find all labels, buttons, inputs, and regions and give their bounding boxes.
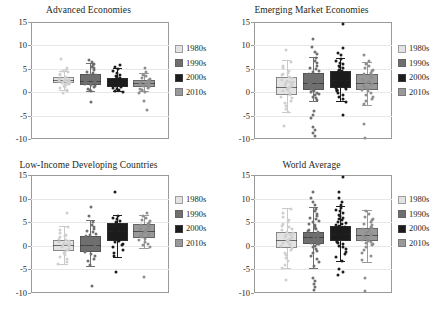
- y-axis-tick-label: 0: [23, 241, 27, 251]
- legend-label: 1980s: [409, 195, 429, 204]
- data-point: [367, 65, 370, 68]
- tick-mark: [28, 139, 31, 140]
- y-axis-tick-label: 0: [246, 241, 250, 251]
- legend-label: 2000s: [186, 224, 206, 233]
- whisker-cap: [139, 248, 148, 249]
- y-axis-tick-label: -10: [16, 288, 27, 298]
- data-point: [147, 242, 150, 245]
- data-point: [363, 103, 366, 106]
- y-axis-tick-label: 10: [19, 194, 28, 204]
- data-point: [369, 234, 372, 237]
- y-axis-tick-label: 5: [246, 217, 250, 227]
- y-axis-tick-label: -5: [20, 111, 27, 121]
- data-point: [360, 258, 363, 261]
- legend-swatch-2000s: [175, 225, 183, 233]
- data-point: [365, 241, 368, 244]
- data-point: [360, 251, 363, 254]
- legend: 1980s1990s2000s2010s: [175, 195, 219, 253]
- data-point: [138, 239, 141, 242]
- data-point: [363, 53, 366, 56]
- legend-item-2000s: 2000s: [398, 73, 442, 82]
- y-axis-tick-label: 15: [242, 17, 251, 27]
- data-point: [363, 123, 366, 126]
- legend-swatch-1980s: [398, 196, 406, 204]
- legend-label: 2000s: [409, 73, 429, 82]
- legend-swatch-1990s: [175, 59, 183, 67]
- y-axis-tick-label: -5: [20, 264, 27, 274]
- y-axis-tick-label: -10: [239, 134, 250, 144]
- legend-label: 1990s: [409, 59, 429, 68]
- plot-area: 151050-5-10: [254, 175, 392, 293]
- legend-item-2010s: 2010s: [398, 239, 442, 248]
- data-point: [142, 275, 145, 278]
- legend-item-1990s: 1990s: [398, 59, 442, 68]
- legend-swatch-2010s: [398, 239, 406, 247]
- plot-area: 151050-5-10: [254, 22, 392, 139]
- tick-mark: [28, 293, 31, 294]
- legend-swatch-2010s: [175, 239, 183, 247]
- box-series-2010s: [31, 22, 169, 139]
- y-axis-tick-label: 5: [23, 64, 27, 74]
- y-axis-tick-label: 5: [246, 64, 250, 74]
- data-point: [368, 59, 371, 62]
- data-point: [145, 212, 148, 215]
- legend-item-2010s: 2010s: [398, 88, 442, 97]
- legend-label: 2000s: [186, 73, 206, 82]
- y-axis-tick-label: 10: [19, 40, 28, 50]
- whisker-cap: [362, 262, 371, 263]
- panel-emerging-market-economies: Emerging Market Economies 151050-5-10 19…: [223, 0, 446, 155]
- plot-area: 151050-5-10: [31, 175, 169, 293]
- legend-swatch-1990s: [398, 59, 406, 67]
- legend-item-1980s: 1980s: [398, 44, 442, 53]
- legend-swatch-2010s: [175, 88, 183, 96]
- legend-label: 1980s: [186, 195, 206, 204]
- data-point: [142, 231, 145, 234]
- legend-label: 1980s: [409, 44, 429, 53]
- legend: 1980s1990s2000s2010s: [398, 195, 442, 253]
- legend-swatch-1990s: [175, 210, 183, 218]
- data-point: [371, 226, 374, 229]
- legend-label: 2000s: [409, 224, 429, 233]
- legend-swatch-2010s: [398, 88, 406, 96]
- legend-item-1980s: 1980s: [175, 195, 219, 204]
- y-axis-tick-label: 15: [242, 170, 251, 180]
- legend-label: 1990s: [186, 59, 206, 68]
- legend-item-1980s: 1980s: [398, 195, 442, 204]
- y-axis-tick-label: 5: [23, 217, 27, 227]
- data-point: [143, 90, 146, 93]
- data-point: [363, 215, 366, 218]
- data-point: [140, 218, 143, 221]
- data-point: [362, 78, 365, 81]
- data-point: [146, 86, 149, 89]
- y-axis-tick-label: 10: [242, 194, 251, 204]
- y-axis-tick-label: -10: [16, 134, 27, 144]
- legend-item-2000s: 2000s: [175, 73, 219, 82]
- y-axis-tick-label: 0: [246, 87, 250, 97]
- panel-title: World Average: [223, 160, 446, 170]
- data-point: [371, 244, 374, 247]
- data-point: [361, 88, 364, 91]
- legend: 1980s1990s2000s2010s: [175, 44, 219, 102]
- legend-label: 2010s: [409, 88, 429, 97]
- legend-item-1990s: 1990s: [175, 59, 219, 68]
- legend-label: 1990s: [409, 210, 429, 219]
- data-point: [364, 136, 367, 139]
- data-point: [142, 244, 145, 247]
- data-point: [362, 222, 365, 225]
- data-point: [362, 73, 365, 76]
- data-point: [146, 233, 149, 236]
- data-point: [138, 91, 141, 94]
- legend-swatch-1980s: [175, 196, 183, 204]
- box-series-2010s: [254, 175, 392, 293]
- legend-swatch-1980s: [398, 45, 406, 53]
- data-point: [140, 76, 143, 79]
- data-point: [371, 77, 374, 80]
- tick-mark: [251, 293, 254, 294]
- legend-label: 2010s: [186, 239, 206, 248]
- data-point: [363, 66, 366, 69]
- legend-swatch-1990s: [398, 210, 406, 218]
- y-axis-tick-label: -10: [239, 288, 250, 298]
- data-point: [145, 71, 148, 74]
- panel-low-income-developing-countries: Low-Income Developing Countries 151050-5…: [0, 155, 223, 309]
- legend-item-2000s: 2000s: [398, 224, 442, 233]
